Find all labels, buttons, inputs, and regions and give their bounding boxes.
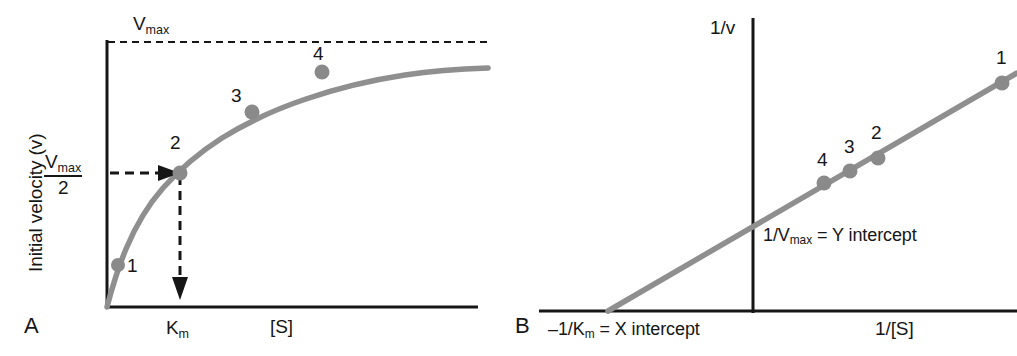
panel-a-point-label-2: 2	[170, 133, 180, 152]
data-point-3[interactable]	[843, 164, 858, 179]
y-intercept-annotation-subscript: max	[790, 233, 812, 247]
panel-b-point-label-1: 1	[996, 48, 1006, 67]
data-point-2[interactable]	[173, 166, 188, 181]
michaelis-menten-curve	[107, 68, 488, 307]
vmax-label-subscript: max	[146, 23, 170, 37]
y-intercept-annotation: 1/Vmax = Y intercept	[763, 226, 917, 247]
data-point-3[interactable]	[245, 105, 260, 120]
panel-b-plot	[507, 0, 1017, 356]
vmax-label: Vmax	[133, 14, 169, 36]
km-label-text: K	[166, 317, 179, 338]
y-intercept-annotation-suffix: = Y intercept	[812, 225, 917, 245]
panel-b-point-label-3: 3	[844, 137, 854, 156]
panel-a-x-axis-label: [S]	[270, 317, 293, 336]
data-point-1[interactable]	[995, 76, 1010, 91]
km-label: Km	[166, 318, 189, 340]
panel-a-point-label-3: 3	[231, 86, 241, 105]
panel-a-y-axis-label: Initial velocity (v)	[26, 134, 45, 272]
panel-b-point-label-2: 2	[871, 123, 881, 142]
data-point-1[interactable]	[111, 258, 125, 272]
lineweaver-burk-line	[608, 73, 1017, 311]
half-vmax-label: Vmax 2	[44, 152, 82, 198]
panel-a-letter: A	[24, 315, 39, 337]
panel-a: Vmax Vmax 2 Initial velocity (v) 1 2 3 4…	[0, 0, 510, 356]
half-vmax-numerator-text: V	[45, 151, 58, 172]
km-label-subscript: m	[179, 327, 189, 341]
figure-michaelis-menten-lineweaver-burk: Vmax Vmax 2 Initial velocity (v) 1 2 3 4…	[0, 0, 1017, 356]
x-intercept-annotation-prefix: –1/K	[548, 319, 585, 339]
panel-b-letter: B	[515, 315, 530, 337]
panel-b: 1/v 1 2 3 4 1/Vmax = Y intercept –1/Km =…	[507, 0, 1017, 356]
half-vmax-numerator: Vmax	[44, 152, 82, 177]
data-point-4[interactable]	[817, 176, 832, 191]
panel-b-point-label-4: 4	[817, 150, 827, 169]
panel-b-x-axis-label: 1/[S]	[875, 319, 914, 338]
x-intercept-annotation: –1/Km = X intercept	[548, 320, 700, 341]
half-vmax-denominator: 2	[44, 177, 82, 198]
x-intercept-annotation-suffix: = X intercept	[595, 319, 700, 339]
panel-b-y-axis-label: 1/v	[710, 18, 735, 37]
panel-a-point-label-4: 4	[313, 44, 323, 63]
km-arrowhead	[172, 277, 188, 300]
half-vmax-numerator-subscript: max	[58, 161, 82, 175]
data-point-2[interactable]	[871, 151, 886, 166]
y-intercept-annotation-prefix: 1/V	[763, 225, 790, 245]
x-intercept-annotation-subscript: m	[585, 327, 595, 341]
panel-a-point-label-1: 1	[127, 256, 137, 275]
vmax-label-text: V	[133, 13, 146, 34]
data-point-4[interactable]	[315, 65, 330, 80]
